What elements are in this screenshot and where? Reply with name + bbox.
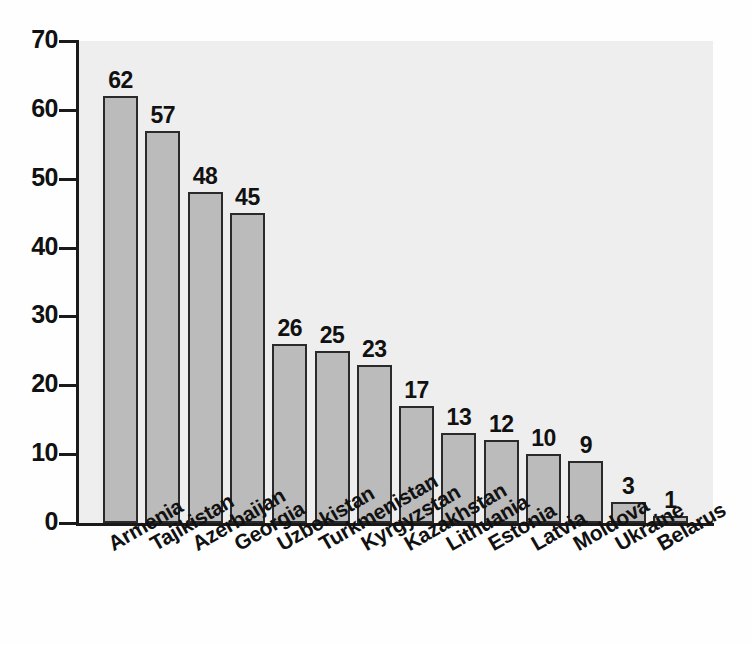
bar-value-label: 9	[558, 432, 613, 459]
chart-page: 010203040506070 625748452625231713121093…	[0, 0, 752, 645]
bar[interactable]	[103, 96, 138, 523]
bar-value-label: 23	[347, 336, 402, 363]
bar[interactable]	[230, 213, 265, 523]
bar-value-label: 45	[220, 184, 275, 211]
bar[interactable]	[145, 131, 180, 523]
bar-value-label: 62	[93, 67, 148, 94]
bar-value-label: 57	[135, 102, 190, 129]
bar-value-label: 17	[389, 377, 444, 404]
bar[interactable]	[188, 192, 223, 523]
